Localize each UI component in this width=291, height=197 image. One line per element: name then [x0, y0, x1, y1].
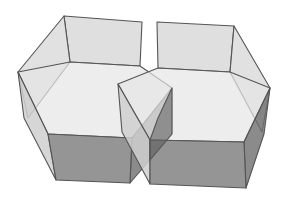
diagram-canvas: [0, 0, 291, 197]
right-prism-back-wall-face: [157, 22, 234, 72]
hexagonal-prisms-diagram: [0, 0, 291, 197]
left-prism-front-face: [48, 134, 132, 183]
right-prism-front-face: [150, 140, 246, 188]
left-prism-back-wall-face: [64, 16, 142, 66]
